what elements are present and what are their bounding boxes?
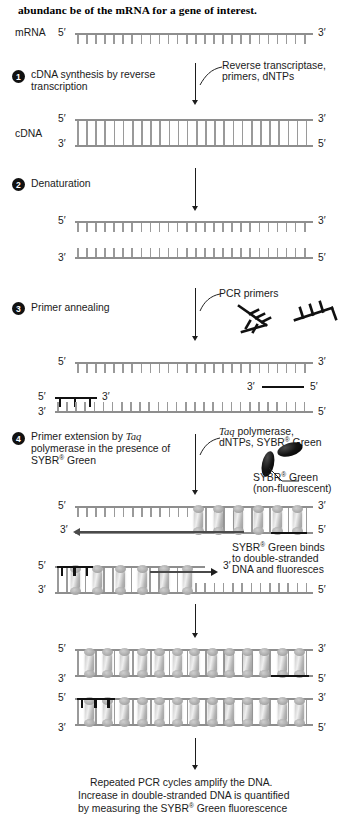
base-tick — [158, 402, 160, 411]
step-4-reagents-line2: dNTPs, SYBR® Green — [219, 437, 321, 449]
sybr-green-dye-dot — [207, 670, 218, 678]
sybr-green-dye-dot — [119, 719, 130, 727]
step-4-number: 4 — [12, 432, 25, 445]
sybr-green-dye-dot — [84, 648, 95, 656]
sybr-binds-b: Green binds — [265, 542, 325, 553]
base-pair-rung — [196, 121, 198, 145]
sybr-green-dye-dot — [84, 670, 95, 678]
base-pair-rung — [223, 121, 225, 145]
denatured-top-strand — [75, 221, 313, 235]
final2-bottom-3prime: 3′ — [58, 722, 66, 733]
final1-bottom-3prime: 3′ — [58, 673, 66, 684]
sybr-green-dye-dot — [102, 719, 113, 727]
pcr-primers-label: PCR primers — [219, 288, 278, 300]
extB-bottom-5prime: 5′ — [318, 584, 326, 595]
base-pair-rung — [95, 121, 97, 145]
flow-arrow-3-line — [195, 288, 196, 339]
base-tick — [269, 583, 271, 592]
base-tick — [195, 583, 197, 592]
base-tick — [159, 248, 161, 257]
base-tick — [231, 402, 233, 411]
strand-backbone — [55, 411, 313, 413]
base-tick — [259, 248, 261, 257]
base-pair-rung — [123, 121, 125, 145]
step-1-label: cDNA synthesis by reverse transcription — [31, 69, 166, 92]
base-tick — [77, 248, 79, 257]
base-pair-rung — [169, 700, 171, 724]
step-4-text-b: polymerase in the presence of SYBR — [31, 443, 170, 466]
sybr-green-dye-dot — [182, 587, 193, 595]
extB-growth-arrow-line — [150, 571, 212, 573]
extA-new-strand-3prime: 3′ — [60, 524, 68, 535]
base-tick — [194, 402, 196, 411]
flow-arrow-5-head — [192, 633, 198, 638]
final-duplex-2 — [75, 698, 313, 730]
base-pair-rung — [288, 651, 290, 675]
sybr-green-dye-dot — [102, 648, 113, 656]
base-tick — [168, 248, 170, 257]
primer-base-tick — [73, 566, 75, 576]
final1-top-3prime: 3′ — [318, 643, 326, 654]
base-tick — [121, 402, 123, 411]
base-pair-rung — [141, 121, 143, 145]
sybr-green-dye-dot — [277, 648, 288, 656]
base-tick — [213, 364, 215, 373]
flow-arrow-1-line — [195, 63, 196, 103]
sybr-green-dye-dot — [137, 565, 148, 573]
base-tick — [277, 223, 279, 232]
base-tick — [213, 35, 215, 44]
base-tick — [150, 35, 152, 44]
mrna-strand — [75, 33, 313, 47]
base-tick — [159, 223, 161, 232]
base-tick — [259, 35, 261, 44]
base-tick — [159, 508, 161, 517]
sybr-green-dye-dot — [253, 527, 264, 535]
base-tick — [77, 223, 79, 232]
denat-top-5prime: 5′ — [58, 215, 66, 226]
sybr-green-dye-dot — [119, 697, 130, 705]
cdna-top-5prime: 5′ — [58, 113, 66, 124]
base-tick — [213, 223, 215, 232]
flow-arrow-2-head — [192, 206, 198, 211]
base-tick — [186, 364, 188, 373]
base-tick — [104, 35, 106, 44]
cdna-top-3prime: 3′ — [318, 113, 326, 124]
sybr-binds-line2: to double-stranded — [232, 553, 319, 565]
base-tick — [295, 402, 297, 411]
base-tick — [112, 402, 114, 411]
caption-line-3: by measuring the SYBR® Green fluorescenc… — [78, 803, 287, 815]
flow-arrow-5-line — [195, 604, 196, 636]
base-pair-rung — [187, 700, 189, 724]
base-tick — [304, 248, 306, 257]
cdna-bottom-3prime: 3′ — [58, 138, 66, 149]
base-tick — [251, 583, 253, 592]
sybr-green-dye-dot — [119, 648, 130, 656]
base-tick — [159, 35, 161, 44]
sybr-green-dye-dot — [137, 670, 148, 678]
annealed-top-strand — [75, 362, 313, 376]
base-tick — [66, 402, 68, 411]
base-tick — [75, 402, 77, 411]
base-pair-rung — [159, 121, 161, 145]
base-tick — [139, 402, 141, 411]
base-tick — [103, 402, 105, 411]
base-pair-rung — [242, 121, 244, 145]
base-tick — [204, 35, 206, 44]
sybr-dye-label-line1: SYBR® Green — [253, 472, 318, 484]
base-pair-rung — [57, 568, 59, 592]
base-tick — [223, 583, 225, 592]
base-pair-rung — [214, 121, 216, 145]
step-4-taq: Taq — [126, 431, 142, 442]
free-primer-right-icon — [292, 300, 338, 328]
cdna-duplex — [75, 119, 313, 151]
final1-bottom-5prime: 5′ — [318, 673, 326, 684]
base-tick — [141, 508, 143, 517]
base-tick — [177, 248, 179, 257]
sybr-green-dye-dot — [115, 565, 126, 573]
base-tick — [95, 223, 97, 232]
base-tick — [131, 248, 133, 257]
base-tick — [295, 35, 297, 44]
step-2-number: 2 — [12, 178, 25, 191]
base-tick — [114, 508, 116, 517]
base-tick — [249, 248, 251, 257]
